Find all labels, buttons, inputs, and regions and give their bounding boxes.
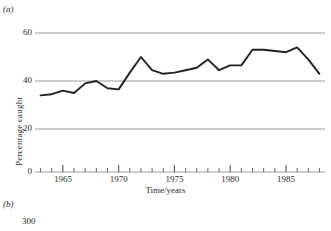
ytick-label-0: 0 — [10, 166, 32, 176]
y-axis-title: Percentage caught — [14, 97, 24, 166]
chart-panel-a: 60 40 20 0 Percentage caught 19651970197… — [0, 16, 331, 184]
panel-b-label: (b) — [3, 199, 14, 209]
data-series-line — [41, 47, 320, 95]
xtick-label-1980: 1980 — [210, 174, 250, 184]
x-axis-ticks — [41, 165, 320, 172]
panel-b-ytick-label-300: 300 — [22, 216, 36, 226]
panel-a-label: (a) — [3, 4, 14, 14]
panel-b-letter-text: (b) — [3, 199, 14, 209]
panel-a-letter-text: (a) — [3, 4, 14, 14]
xtick-label-1970: 1970 — [99, 174, 139, 184]
ytick-label-40: 40 — [10, 75, 32, 85]
xtick-label-1985: 1985 — [266, 174, 306, 184]
xtick-label-1965: 1965 — [43, 174, 83, 184]
gridlines — [35, 33, 325, 129]
x-axis-title: Time/years — [0, 185, 331, 195]
ytick-label-60: 60 — [10, 27, 32, 37]
figure-canvas: (a) 60 40 20 0 Percentage caught 1965197… — [0, 0, 331, 231]
line-chart-svg — [0, 16, 331, 184]
xtick-label-1975: 1975 — [154, 174, 194, 184]
